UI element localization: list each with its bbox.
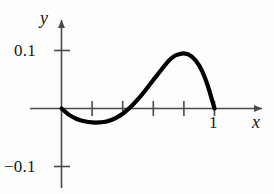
data-curve: [62, 53, 215, 122]
y-tick-label-negative: −0.1: [4, 157, 36, 177]
y-tick-label-positive: 0.1: [14, 41, 36, 61]
y-axis-arrowhead: [58, 20, 65, 28]
chart-figure: 0.1 −0.1 1 y x: [0, 0, 274, 194]
y-axis-name-label: y: [40, 8, 48, 29]
x-axis-name-label: x: [252, 112, 260, 133]
y-axis: [58, 20, 65, 188]
plot-canvas: [0, 0, 274, 194]
x-tick-label-one: 1: [209, 113, 218, 133]
x-axis-arrowhead: [254, 105, 262, 112]
